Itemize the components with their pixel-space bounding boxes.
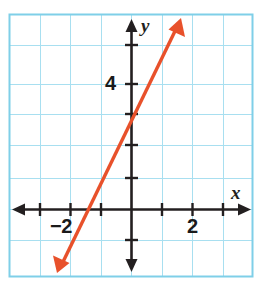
graph-canvas [0,0,263,293]
x-axis-right-arrowhead [238,204,251,216]
x-tick-label-2: 2 [187,216,198,236]
y-axis-bottom-arrowhead [126,259,138,272]
y-axis-top-arrowhead [126,19,138,32]
x-axis-label: x [231,183,241,202]
line-up-arrowhead [169,18,186,37]
y-axis [125,19,138,272]
line-down-arrowhead [53,256,70,274]
y-tick-label-4: 4 [105,73,116,93]
x-tick-label-negative-2: −2 [50,216,72,236]
y-axis-label: y [141,16,149,35]
x-axis-left-arrowhead [12,204,25,216]
coordinate-graph-figure: y x −2 2 4 [0,0,263,293]
